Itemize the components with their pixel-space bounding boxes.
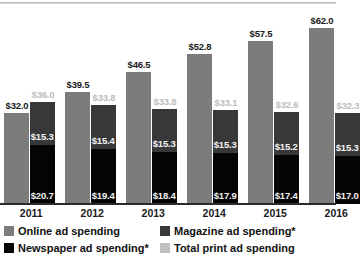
legend-row-1: Online ad spendingMagazine ad spending* [0,223,336,239]
legend-label-totalprint: Total print ad spending [174,240,295,256]
bar-online-2015 [248,41,273,204]
value-label-newspaper-2012: $19.4 [92,191,115,201]
bar-group: $57.5$32.6$15.2$17.4 [248,8,304,204]
value-label-magazine-2016: $15.3 [336,143,359,153]
value-label-newspaper-2015: $17.4 [275,191,298,201]
value-label-online-2015: $57.5 [247,29,276,39]
value-label-magazine-2015: $15.2 [275,142,298,152]
x-tick-2011: 2011 [4,206,60,220]
bar-online-2016 [309,28,334,204]
bar-group: $46.5$33.8$15.3$18.4 [126,8,182,204]
x-tick-2015: 2015 [248,206,304,220]
x-tick-2013: 2013 [126,206,182,220]
x-tick-2012: 2012 [65,206,121,220]
bar-online-2011 [4,113,29,204]
bar-group: $32.0$36.0$15.3$20.7 [4,8,60,204]
legend-swatch-magazine-icon [160,226,170,236]
chart-legend: Online ad spendingMagazine ad spending* … [0,223,336,257]
x-axis-tick-labels: 201120122013201420152016 [0,206,336,222]
legend-swatch-online-icon [4,226,14,236]
value-label-total-print-2015: $32.6 [273,100,302,110]
bar-group: $62.0$32.3$15.3$17.0 [309,8,364,204]
bar-online-2012 [65,92,90,204]
legend-row-2: Newspaper ad spending*Total print ad spe… [0,240,336,256]
value-label-newspaper-2013: $18.4 [153,191,176,201]
bar-total-print-2011 [30,102,55,204]
value-label-magazine-2013: $15.3 [153,139,176,149]
x-axis-line [0,203,336,205]
value-label-online-2014: $52.8 [186,42,215,52]
value-label-online-2011: $32.0 [3,101,32,111]
bar-online-2014 [187,54,212,204]
value-label-newspaper-2016: $17.0 [336,191,359,201]
legend-swatch-newspaper-icon [4,243,14,253]
top-divider-shadow [0,3,336,4]
x-tick-2016: 2016 [309,206,364,220]
legend-label-online: Online ad spending [18,223,120,239]
value-label-magazine-2011: $15.3 [31,132,54,142]
plot-area: $32.0$36.0$15.3$20.7$39.5$33.8$15.4$19.4… [0,8,336,204]
value-label-total-print-2016: $32.3 [334,101,363,111]
value-label-magazine-2012: $15.4 [92,136,115,146]
bar-online-2013 [126,72,151,204]
value-label-total-print-2011: $36.0 [29,90,58,100]
value-label-total-print-2012: $33.8 [90,93,119,103]
value-label-online-2016: $62.0 [308,16,337,26]
value-label-newspaper-2011: $20.7 [31,191,54,201]
value-label-online-2012: $39.5 [64,80,93,90]
value-label-online-2013: $46.5 [125,60,154,70]
legend-swatch-totalprint-icon [160,243,170,253]
bar-group: $52.8$33.1$15.3$17.9 [187,8,243,204]
value-label-total-print-2013: $33.8 [151,97,180,107]
bar-group: $39.5$33.8$15.4$19.4 [65,8,121,204]
value-label-magazine-2014: $15.3 [214,140,237,150]
x-tick-2014: 2014 [187,206,243,220]
legend-label-magazine: Magazine ad spending* [174,223,296,239]
value-label-total-print-2014: $33.1 [212,98,241,108]
value-label-newspaper-2014: $17.9 [214,191,237,201]
legend-label-newspaper: Newspaper ad spending* [18,240,149,256]
